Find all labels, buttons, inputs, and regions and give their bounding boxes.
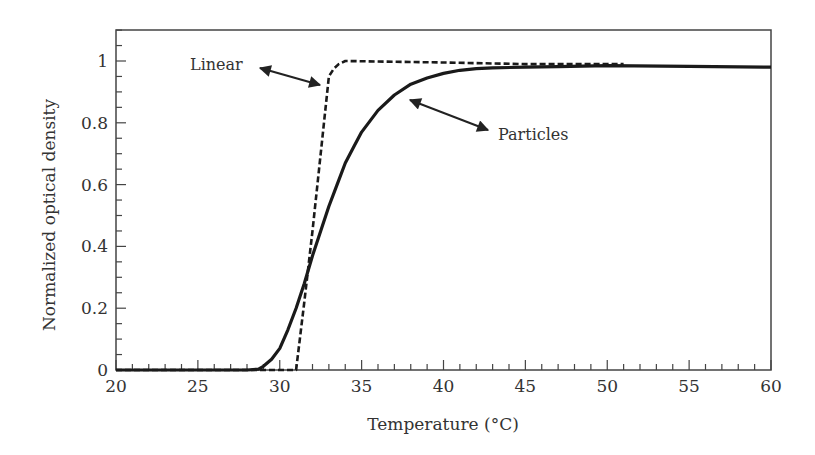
x-tick-label: 40 <box>433 376 455 396</box>
y-tick-label: 0.2 <box>81 298 108 318</box>
plot-frame <box>116 30 771 370</box>
annotation-linear: Linear <box>190 55 243 74</box>
x-axis-label: Temperature (°C) <box>367 414 519 434</box>
x-tick-label: 55 <box>678 376 700 396</box>
series-linear <box>116 61 624 370</box>
x-tick-label: 30 <box>269 376 291 396</box>
x-tick-label: 60 <box>760 376 782 396</box>
x-tick-label: 20 <box>105 376 127 396</box>
y-axis-label: Normalized optical density <box>39 99 59 331</box>
x-tick-label: 25 <box>187 376 209 396</box>
y-axis: 00.20.40.60.81 <box>81 30 126 380</box>
y-tick-label: 0.6 <box>81 175 108 195</box>
y-tick-label: 0.4 <box>81 236 108 256</box>
series-particles <box>116 66 771 370</box>
chart: 202530354045505560 00.20.40.60.81 Temper… <box>0 0 815 455</box>
y-tick-label: 0.8 <box>81 113 108 133</box>
linear-arrow-icon <box>260 68 320 85</box>
x-axis: 202530354045505560 <box>105 360 782 396</box>
series-layer <box>116 61 771 370</box>
y-tick-label: 0 <box>97 360 108 380</box>
x-tick-label: 45 <box>515 376 537 396</box>
x-tick-label: 50 <box>596 376 618 396</box>
y-tick-label: 1 <box>97 51 108 71</box>
x-tick-label: 35 <box>351 376 373 396</box>
particles-arrow-icon <box>410 100 488 130</box>
annotation-particles: Particles <box>498 125 569 144</box>
